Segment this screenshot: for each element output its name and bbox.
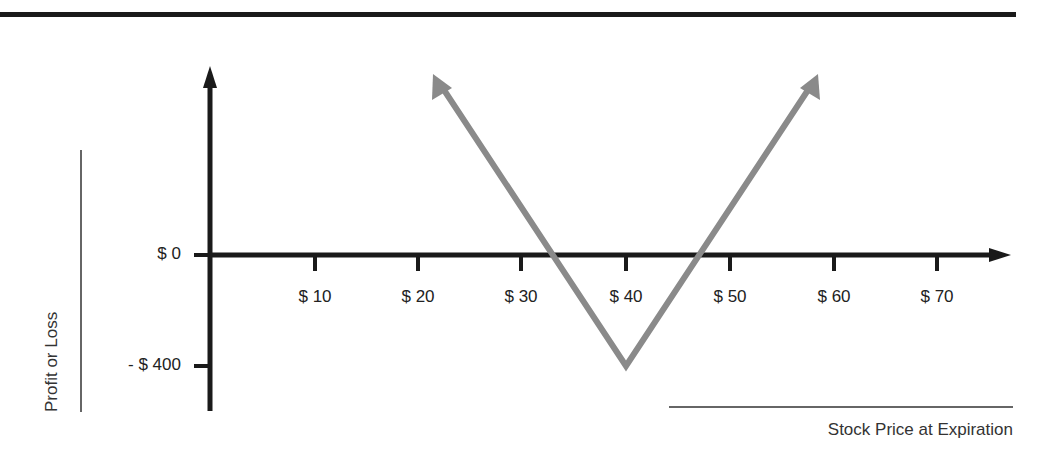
x-axis [210,248,1011,271]
x-tick-label: $ 20 [401,287,434,307]
x-tick-label: $ 30 [504,287,537,307]
x-tick-label: $ 60 [817,287,850,307]
y-axis [194,66,217,411]
x-tick-label: $ 50 [713,287,746,307]
chart-canvas [0,0,1044,460]
top-rule [0,12,1016,17]
y-axis-title: Profit or Loss [42,312,62,412]
payoff-line [432,74,820,366]
x-axis-title: Stock Price at Expiration [828,420,1013,440]
y-tick-zero: $ 0 [61,244,181,264]
x-tick-label: $ 40 [609,287,642,307]
x-tick-label: $ 70 [920,287,953,307]
x-axis-arrow-icon [989,248,1011,262]
y-axis-arrow-icon [203,66,217,88]
y-tick-loss: - $ 400 [61,355,181,375]
x-tick-label: $ 10 [298,287,331,307]
